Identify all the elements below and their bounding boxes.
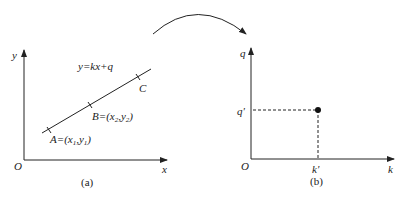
caption-b: (b) [310,175,323,188]
caption-a: (a) [81,176,94,189]
k-axis-label: k [388,163,394,175]
line-kxq [42,69,151,133]
tick-b [88,102,92,108]
point-a-label: A=(x1,y1) [49,133,91,147]
y-axis-label-a: y [11,49,17,61]
point-b-label: B=(x2,y2) [92,110,133,124]
panel-b: q q' O k' (b) k [237,47,394,188]
equation-label: y=kx+q [77,60,113,72]
parameter-point [315,107,321,113]
origin-label-a: O [14,160,22,172]
q-prime-label: q' [237,105,246,117]
x-axis-label-a: x [161,163,167,175]
q-axis-label: q [240,47,246,59]
hough-transform-diagram: y y=kx+q C B=(x2,y2) A=(x1,y1) O x (a) q… [0,0,403,198]
transform-arrow [153,15,246,35]
origin-label-b: O [241,160,249,172]
k-prime-label: k' [312,163,320,175]
panel-a: y y=kx+q C B=(x2,y2) A=(x1,y1) O x (a) [11,49,167,189]
point-c-label: C [139,82,147,94]
